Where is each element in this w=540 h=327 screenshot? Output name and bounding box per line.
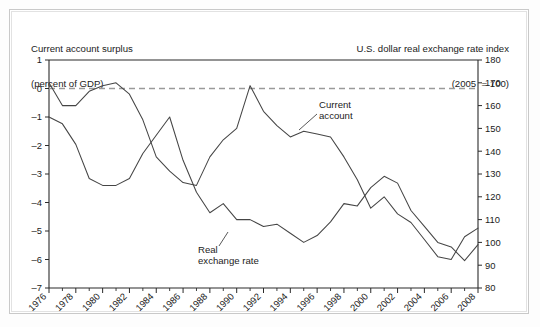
x-tick-label: 2006 bbox=[428, 291, 451, 314]
right-tick-label: 110 bbox=[485, 214, 500, 225]
right-tick-label: 130 bbox=[485, 168, 501, 179]
right-tick-label: 180 bbox=[485, 54, 501, 65]
series-line-current-account bbox=[49, 83, 478, 260]
right-tick-label: 80 bbox=[485, 282, 495, 293]
left-tick-label: 1 bbox=[37, 54, 42, 65]
series-line-real-exchange-rate bbox=[49, 117, 478, 261]
plot-frame bbox=[49, 60, 478, 288]
real-exchange-rate-label-line2: exchange rate bbox=[198, 255, 259, 266]
left-tick-label: –3 bbox=[32, 168, 42, 179]
right-tick-label: 120 bbox=[485, 191, 501, 202]
data-series-group bbox=[49, 83, 478, 261]
x-tick-label: 1980 bbox=[80, 291, 103, 314]
x-tick-label: 1978 bbox=[53, 291, 76, 314]
real-exchange-rate-label-line1: Real bbox=[198, 244, 218, 255]
right-tick-label: 150 bbox=[485, 123, 501, 134]
x-tick-label: 1996 bbox=[294, 291, 317, 314]
x-tick-label: 1990 bbox=[214, 291, 237, 314]
x-tick-label: 1988 bbox=[187, 291, 210, 314]
x-tick-label: 2008 bbox=[455, 291, 478, 314]
x-tick-label: 2000 bbox=[348, 291, 371, 314]
right-tick-label: 100 bbox=[485, 237, 501, 248]
left-tick-label: –1 bbox=[32, 111, 42, 122]
x-tick-label: 1992 bbox=[240, 291, 263, 314]
current-account-label-line2: account bbox=[319, 110, 353, 121]
right-tick-label: 140 bbox=[485, 146, 501, 157]
left-tick-label: –2 bbox=[32, 140, 42, 151]
left-tick-label: –4 bbox=[32, 197, 42, 208]
x-tick-label: 1982 bbox=[106, 291, 129, 314]
real-exchange-rate-leader bbox=[219, 232, 228, 246]
left-tick-label: 0 bbox=[37, 83, 42, 94]
x-tick-label: 1976 bbox=[26, 291, 49, 314]
x-tick-label: 2002 bbox=[374, 291, 397, 314]
chart-canvas: 10–1–2–3–4–5–6–7 18017016015014013012011… bbox=[0, 0, 540, 327]
right-tick-label: 90 bbox=[485, 260, 495, 271]
right-tick-label: 160 bbox=[485, 100, 501, 111]
left-tick-label: –5 bbox=[32, 225, 42, 236]
current-account-label-line1: Current bbox=[319, 99, 351, 110]
right-axis-ticks: 1801701601501401301201101009080 bbox=[478, 54, 501, 293]
x-tick-label: 1986 bbox=[160, 291, 183, 314]
x-tick-label: 1994 bbox=[267, 291, 290, 314]
right-tick-label: 170 bbox=[485, 77, 501, 88]
left-axis-ticks: 10–1–2–3–4–5–6–7 bbox=[32, 54, 49, 293]
x-axis-ticks: 1976197819801982198419861988199019921994… bbox=[26, 288, 478, 313]
x-tick-label: 1984 bbox=[133, 291, 156, 314]
figure-root: Current account surplus (percent of GDP)… bbox=[0, 0, 540, 327]
x-tick-label: 1998 bbox=[321, 291, 344, 314]
x-tick-label: 2004 bbox=[401, 291, 424, 314]
current-account-leader bbox=[299, 114, 317, 130]
left-tick-label: –6 bbox=[32, 254, 42, 265]
